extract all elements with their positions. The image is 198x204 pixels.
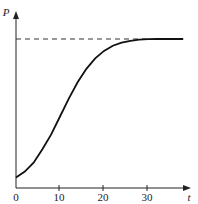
logistic-chart: 0 10 20 30 t P	[0, 0, 198, 204]
logistic-curve	[16, 39, 183, 178]
x-axis-label: t	[187, 191, 191, 203]
x-tick-label-10: 10	[54, 191, 66, 203]
x-tick-label-30: 30	[142, 191, 154, 203]
y-axis-arrow-icon	[13, 11, 19, 19]
x-tick-label-0: 0	[13, 191, 19, 203]
x-tick-label-20: 20	[98, 191, 110, 203]
y-axis-label: P	[2, 6, 10, 18]
